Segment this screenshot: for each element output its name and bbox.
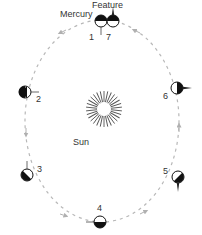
position-label-6: 6 xyxy=(163,91,168,101)
sun-icon xyxy=(86,91,122,127)
mercury-position-3 xyxy=(21,161,33,181)
position-label-3: 3 xyxy=(37,164,42,174)
orbit-arrow-icon xyxy=(60,214,66,216)
orbit-arrow-icon xyxy=(140,211,146,214)
mercury-position-5 xyxy=(172,171,184,192)
feature-label: Feature xyxy=(92,0,123,10)
mercury-position-6 xyxy=(171,82,192,94)
position-label-1: 1 xyxy=(89,32,94,42)
position-label-7: 7 xyxy=(106,32,111,42)
position-label-4: 4 xyxy=(97,203,102,213)
sun-label: Sun xyxy=(73,137,89,147)
mercury-orbit-diagram: Sun Mercury Feature 1 7 2 3 4 xyxy=(0,0,202,235)
position-label-2: 2 xyxy=(36,94,41,104)
mercury-position-7 xyxy=(107,7,119,27)
mercury-position-4 xyxy=(86,216,106,228)
position-label-5: 5 xyxy=(163,166,168,176)
mercury-label: Mercury xyxy=(60,9,93,19)
orbit-path xyxy=(25,20,179,222)
